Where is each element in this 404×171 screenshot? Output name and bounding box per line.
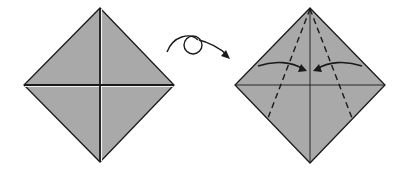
step-after-diamond [235,8,385,163]
turn-over-arrow-icon [167,36,230,59]
step-before-diamond [24,8,174,162]
origami-diagram [0,0,404,171]
